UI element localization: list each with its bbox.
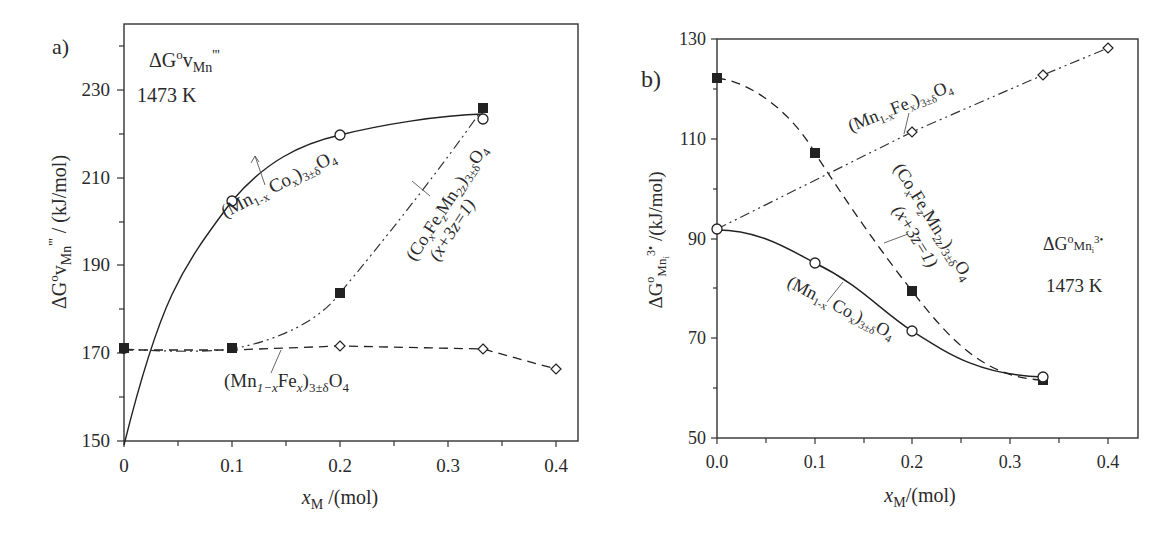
panel-b-quantity-annotation: ΔGoMni3• xyxy=(1043,232,1103,255)
svg-text:0.4: 0.4 xyxy=(544,455,568,476)
panel-b-x-ticks xyxy=(717,438,1108,444)
svg-text:90: 90 xyxy=(688,229,706,249)
svg-text:50: 50 xyxy=(688,428,706,448)
panel-a-series-fe-markers xyxy=(335,341,561,374)
panel-a-origin-marker xyxy=(119,344,129,354)
svg-text:110: 110 xyxy=(680,129,706,149)
svg-text:230: 230 xyxy=(82,79,111,100)
panel-a-fe-series-label: (Mn1−xFex)3±δO4 xyxy=(224,370,349,395)
panel-b: 50 70 90 110 130 0.0 0.1 0.2 0.3 0.4 xM/… xyxy=(641,29,1138,510)
svg-text:0.0: 0.0 xyxy=(706,452,729,472)
svg-text:0.4: 0.4 xyxy=(1097,452,1120,472)
svg-text:190: 190 xyxy=(82,254,111,275)
svg-text:130: 130 xyxy=(679,29,706,49)
panel-a-y-axis-label: ΔGovMn''' / (kJ/mol) xyxy=(46,155,74,309)
panel-b-fe-series-label: (Mn1-xFex)3±δO4 xyxy=(845,76,956,138)
svg-text:0.1: 0.1 xyxy=(220,455,244,476)
panel-a-quantity-annotation: ΔGovMn''' xyxy=(149,47,220,75)
panel-b-label: b) xyxy=(641,66,661,92)
panel-a: 150 170 190 210 230 0 0.1 0.2 0.3 0.4 xM… xyxy=(46,24,578,512)
panel-a-x-axis-label: xM /(mol) xyxy=(301,486,378,512)
svg-text:70: 70 xyxy=(688,328,706,348)
panel-b-x-tick-labels: 0.0 0.1 0.2 0.3 0.4 xyxy=(706,452,1120,472)
panel-a-temperature-annotation: 1473 K xyxy=(137,84,197,106)
svg-text:170: 170 xyxy=(82,342,111,363)
panel-a-x-ticks xyxy=(124,441,556,447)
svg-text:0: 0 xyxy=(119,455,129,476)
svg-text:0.3: 0.3 xyxy=(436,455,460,476)
panel-a-y-tick-labels: 150 170 190 210 230 xyxy=(82,79,111,451)
svg-text:0.1: 0.1 xyxy=(804,452,827,472)
panel-a-label: a) xyxy=(52,34,69,59)
panel-a-x-tick-labels: 0 0.1 0.2 0.3 0.4 xyxy=(119,455,568,476)
panel-a-y-ticks xyxy=(117,46,124,441)
panel-b-x-axis-label: xM/(mol) xyxy=(883,484,955,510)
chart-figure: 150 170 190 210 230 0 0.1 0.2 0.3 0.4 xM… xyxy=(0,0,1174,535)
panel-b-y-axis-label: ΔGoMni3• /(kJ/mol) xyxy=(643,171,671,308)
svg-text:0.2: 0.2 xyxy=(901,452,924,472)
panel-b-series-co-line xyxy=(717,230,1043,377)
panel-b-temperature-annotation: 1473 K xyxy=(1046,275,1103,296)
svg-text:150: 150 xyxy=(82,430,111,451)
panel-a-co-series-label: (Mn1-x Cox)3±δO4 xyxy=(217,146,340,225)
panel-b-y-ticks xyxy=(711,39,717,438)
panel-a-series-co-line xyxy=(124,114,483,445)
svg-text:0.2: 0.2 xyxy=(328,455,352,476)
svg-text:0.3: 0.3 xyxy=(999,452,1022,472)
panel-b-y-tick-labels: 50 70 90 110 130 xyxy=(679,29,706,448)
svg-text:210: 210 xyxy=(82,167,111,188)
